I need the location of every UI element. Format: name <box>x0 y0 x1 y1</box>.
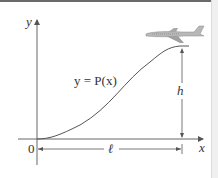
x-axis-label: x <box>199 140 205 156</box>
origin-label: 0 <box>28 141 35 157</box>
length-label: ℓ <box>108 141 113 157</box>
curve-label: y = P(x) <box>74 73 117 89</box>
airplane-icon <box>146 26 204 43</box>
height-label: h <box>177 83 184 99</box>
y-axis-label: y <box>26 14 32 30</box>
curve-p-of-x <box>37 46 189 139</box>
